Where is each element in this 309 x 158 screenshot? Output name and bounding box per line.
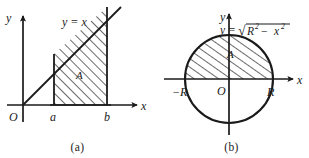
figure-a-curve-label: y = x bbox=[61, 15, 87, 29]
figure-panel: y x O a b y = x A (a) bbox=[0, 0, 309, 158]
figure-a-canvas: y x O a b y = x A bbox=[0, 0, 155, 158]
figure-a-tick-label-b: b bbox=[104, 110, 110, 124]
figure-a-x-axis-label: x bbox=[140, 99, 147, 113]
figure-b-x-axis-label: x bbox=[296, 73, 303, 87]
figure-b-canvas: y x O −R R A y = √ R 2 − x 2 bbox=[154, 0, 309, 158]
figure-b-radicand-exponent-x: 2 bbox=[281, 22, 285, 31]
figure-b-radicand-base-r: R bbox=[246, 25, 254, 37]
figure-b: y x O −R R A y = √ R 2 − x 2 (b) bbox=[154, 0, 309, 158]
figure-b-radicand-minus: − bbox=[261, 25, 268, 37]
figure-a-tick-label-a: a bbox=[50, 110, 56, 124]
figure-b-tick-label-r: R bbox=[266, 85, 275, 99]
figure-b-y-axis-label: y bbox=[219, 10, 226, 24]
figure-b-caption: (b) bbox=[154, 141, 309, 153]
figure-b-radicand-exponent-r: 2 bbox=[255, 22, 259, 31]
figure-b-curve-label-radical: √ bbox=[238, 23, 246, 38]
figure-b-origin-label: O bbox=[217, 84, 226, 98]
figure-b-region-label: A bbox=[226, 48, 234, 60]
figure-a-caption: (a) bbox=[0, 141, 155, 153]
figure-b-curve-label: y = √ R 2 − x 2 bbox=[219, 22, 290, 38]
figure-b-radicand-base-x: x bbox=[273, 25, 280, 37]
figure-b-tick-label-neg-r: −R bbox=[172, 85, 188, 99]
figure-a-y-axis-label: y bbox=[5, 11, 12, 25]
figure-a-region-label: A bbox=[75, 69, 83, 81]
figure-a-origin-label: O bbox=[9, 110, 18, 124]
figure-b-curve-label-lhs: y = bbox=[219, 24, 236, 37]
figure-a: y x O a b y = x A (a) bbox=[0, 0, 155, 158]
